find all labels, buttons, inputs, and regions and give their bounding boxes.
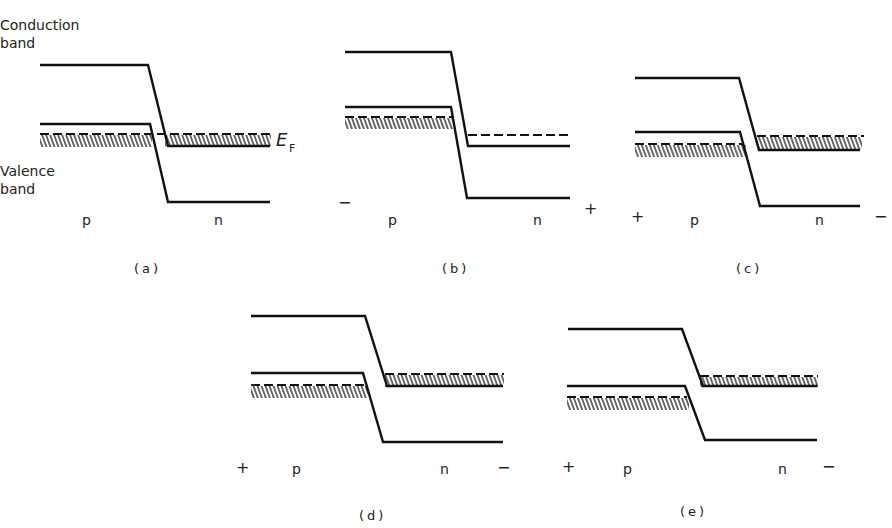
filled-states-p <box>345 118 455 129</box>
bias-sign-left: + <box>631 207 644 226</box>
filled-states-p <box>40 135 152 147</box>
region-n: n <box>815 212 824 228</box>
region-n: n <box>778 461 787 477</box>
caption-c: (c) <box>736 261 762 276</box>
bias-sign-right: + <box>584 199 597 218</box>
caption-a: (a) <box>134 261 161 276</box>
caption-e: (e) <box>680 504 707 519</box>
caption-b: (b) <box>442 261 469 276</box>
valence-band-label-2: band <box>0 181 35 197</box>
conduction-band-edge <box>345 52 570 146</box>
region-p: p <box>690 212 699 228</box>
region-n: n <box>533 212 542 228</box>
region-p: p <box>388 212 397 228</box>
fermi-level-label: E <box>276 129 288 150</box>
caption-d: (d) <box>359 508 386 523</box>
panel-c: + − p n (c) <box>631 78 887 276</box>
region-p: p <box>82 212 91 228</box>
region-n: n <box>440 461 449 477</box>
panel-b: − + p n (b) <box>338 52 597 276</box>
conduction-band-label: Conduction <box>0 17 80 33</box>
bias-sign-right: − <box>822 457 835 476</box>
bias-sign-right: − <box>874 207 887 226</box>
filled-states-n <box>757 137 862 150</box>
filled-states-p <box>567 398 689 410</box>
conduction-band-label-2: band <box>0 35 35 51</box>
panel-a: Conduction band Valence band E F p n (a) <box>0 17 295 276</box>
filled-states-n <box>165 135 271 146</box>
region-p: p <box>623 461 632 477</box>
bias-sign-left: − <box>338 193 351 212</box>
valence-band-edge <box>567 386 817 440</box>
bias-sign-left: + <box>562 457 575 476</box>
panel-d: + − p n (d) <box>236 316 510 523</box>
region-p: p <box>292 461 301 477</box>
panel-e: + − p n (e) <box>562 329 835 519</box>
bias-sign-right: − <box>497 458 510 477</box>
fermi-level-subscript: F <box>289 142 295 155</box>
region-n: n <box>214 212 223 228</box>
filled-states-p <box>635 145 746 157</box>
bias-sign-left: + <box>236 458 249 477</box>
tunnel-diode-band-diagrams: Conduction band Valence band E F p n (a)… <box>0 0 892 528</box>
valence-band-label: Valence <box>0 163 55 179</box>
filled-states-p <box>251 386 368 398</box>
